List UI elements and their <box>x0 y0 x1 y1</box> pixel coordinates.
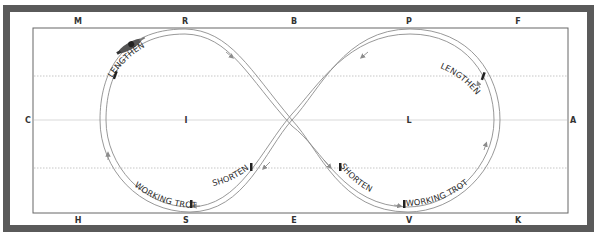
marker-l: L <box>406 116 411 125</box>
marker-r: R <box>182 17 188 26</box>
figure-eight-outer-track <box>100 29 500 212</box>
marker-m: M <box>74 17 82 26</box>
svg-text:SHORTEN: SHORTEN <box>211 162 250 188</box>
direction-arrow <box>484 144 486 150</box>
direction-arrow <box>362 52 368 57</box>
figure-eight-inner-track <box>106 34 494 207</box>
direction-arrow <box>264 162 270 168</box>
cue-working-trot-right: WORKING TROT <box>406 176 471 208</box>
transition-mark <box>403 200 406 208</box>
marker-e: E <box>291 216 296 225</box>
marker-s: S <box>183 216 189 225</box>
direction-arrow <box>324 160 330 167</box>
transition-mark <box>250 163 253 171</box>
cue-shorten-right: SHORTEN <box>338 161 374 194</box>
marker-h: H <box>75 216 82 225</box>
figure-eight-diagram: LENGTHEN LENGTHEN SHORTEN SHORTEN WORKIN… <box>0 0 603 239</box>
marker-b: B <box>291 17 297 26</box>
marker-c: C <box>25 116 31 125</box>
cue-shorten-left: SHORTEN <box>211 162 250 188</box>
marker-a: A <box>570 116 577 125</box>
marker-v: V <box>406 216 413 225</box>
cue-lengthen-right: LENGTHEN <box>439 61 482 97</box>
marker-i: I <box>185 116 188 125</box>
arena-boundary <box>33 28 568 213</box>
marker-f: F <box>515 17 520 26</box>
marker-k: K <box>515 216 522 225</box>
marker-p: P <box>406 17 412 26</box>
svg-text:WORKING TROT: WORKING TROT <box>133 180 198 210</box>
svg-text:SHORTEN: SHORTEN <box>338 161 374 194</box>
svg-text:WORKING TROT: WORKING TROT <box>406 176 471 208</box>
cue-working-trot-left: WORKING TROT <box>133 180 198 210</box>
svg-text:LENGTHEN: LENGTHEN <box>439 61 482 97</box>
